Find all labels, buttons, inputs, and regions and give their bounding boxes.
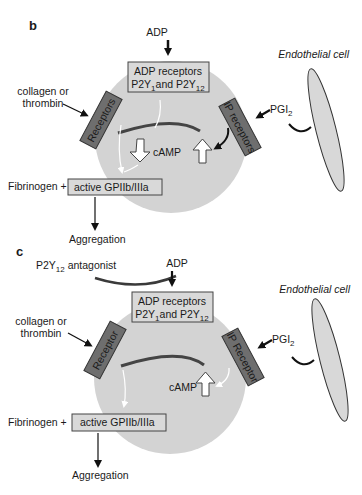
adp-ligand-label: ADP (146, 26, 168, 38)
antagonist-label: P2Y12 antagonist (36, 259, 116, 274)
adp-ligand-label: ADP (166, 257, 188, 269)
aggregation-label: Aggregation (69, 233, 126, 245)
pgi2-release-arrow-icon (289, 124, 311, 131)
collagen-label: collagen or (15, 315, 67, 327)
panel-b: b ADP ADP receptors P2Y1and P2Y12 collag… (8, 18, 351, 245)
adp-receptors-title: ADP receptors (134, 65, 202, 77)
gpiib-iiia-label: active GPIIb/IIIa (80, 416, 155, 428)
pgi2-label: PGI2 (270, 103, 293, 118)
camp-label: cAMP (153, 146, 181, 158)
panel-c: c P2Y12 antagonist ADP ADP receptors P2Y… (8, 244, 355, 481)
collagen-arrow-icon (68, 333, 90, 345)
thrombin-label: thrombin (23, 97, 64, 109)
panel-label: c (16, 244, 23, 259)
adp-receptors-title: ADP receptors (138, 295, 206, 307)
panel-label: b (29, 18, 37, 33)
camp-label: cAMP (169, 381, 197, 393)
pgi2-release-arrow-icon (292, 357, 314, 364)
pgi2-label: PGI2 (272, 333, 295, 348)
fibrinogen-label: Fibrinogen + (8, 180, 67, 192)
aggregation-label: Aggregation (72, 469, 129, 481)
pgi2-arrow-icon (258, 110, 270, 117)
antagonist-inhibition-line (95, 276, 176, 285)
endothelial-cell-label: Endothelial cell (279, 283, 350, 295)
thrombin-label: thrombin (21, 327, 62, 339)
endothelial-cell-label: Endothelial cell (278, 48, 349, 60)
pgi2-arrow-icon (260, 340, 272, 347)
gpiib-iiia-label: active GPIIb/IIIa (74, 181, 149, 193)
collagen-label: collagen or (17, 85, 69, 97)
fibrinogen-label: Fibrinogen + (8, 416, 67, 428)
platelet-signaling-diagram: b ADP ADP receptors P2Y1and P2Y12 collag… (0, 0, 362, 495)
collagen-arrow-icon (63, 104, 86, 115)
